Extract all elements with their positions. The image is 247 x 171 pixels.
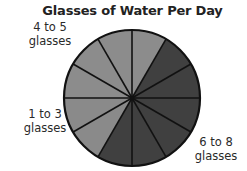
label-6-to-8-line2: glasses bbox=[186, 149, 246, 163]
label-4-to-5-glasses: 4 to 5 glasses bbox=[20, 20, 80, 48]
label-4-to-5-line2: glasses bbox=[20, 34, 80, 48]
label-1-to-3-line1: 1 to 3 bbox=[15, 107, 75, 121]
label-4-to-5-line1: 4 to 5 bbox=[20, 20, 80, 34]
pie-center-dot bbox=[130, 96, 134, 100]
label-1-to-3-glasses: 1 to 3 glasses bbox=[15, 107, 75, 135]
label-6-to-8-glasses: 6 to 8 glasses bbox=[186, 135, 246, 163]
label-6-to-8-line1: 6 to 8 bbox=[186, 135, 246, 149]
label-1-to-3-line2: glasses bbox=[15, 121, 75, 135]
